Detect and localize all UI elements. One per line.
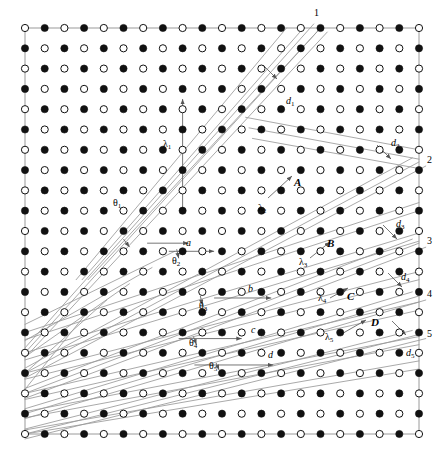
order-label-5: 5 <box>427 329 432 339</box>
lattice-points <box>21 24 422 437</box>
path-difference-label-d3: d3 <box>396 219 405 231</box>
angle-label-theta5: θ5 <box>209 361 217 373</box>
spacing-label-d: d <box>268 350 273 360</box>
spacing-label-a: a <box>186 238 191 248</box>
wavelength-label-lambda4: λ4 <box>318 293 326 305</box>
order-label-4: 4 <box>427 289 432 299</box>
point-label-A: A <box>294 177 301 188</box>
path-difference-label-d1: d1 <box>286 96 295 108</box>
path-difference-label-d2: d2 <box>391 138 400 150</box>
lattice-svg <box>0 0 444 453</box>
point-label-B: B <box>327 238 334 249</box>
wavelength-label-lambda1: λ1 <box>163 139 171 151</box>
order-label-3: 3 <box>427 236 432 246</box>
point-label-C: C <box>347 291 354 302</box>
angle-label-theta3: θ3 <box>199 301 207 313</box>
wavelength-label-lambda5: λ5 <box>325 332 333 344</box>
path-difference-label-d5: d5 <box>406 348 415 360</box>
diffraction-figure: 12345d1d2d3d4d5λ1λ2λ3λ4λ5θ1θ2θ3θ4θ5abcdA… <box>0 0 444 453</box>
point-label-D: D <box>371 317 379 328</box>
path-difference-label-d4: d4 <box>401 272 410 284</box>
spacing-label-c: c <box>251 325 255 335</box>
wavelength-label-lambda3: λ3 <box>299 257 307 269</box>
angle-label-theta2: θ2 <box>172 256 180 268</box>
spacing-label-b: b <box>248 284 253 294</box>
angle-label-theta4: θ4 <box>189 338 197 350</box>
order-label-1: 1 <box>314 8 319 18</box>
angle-label-theta1: θ1 <box>113 198 121 210</box>
wavelength-label-lambda2: λ2 <box>258 203 266 215</box>
order-label-2: 2 <box>427 155 432 165</box>
